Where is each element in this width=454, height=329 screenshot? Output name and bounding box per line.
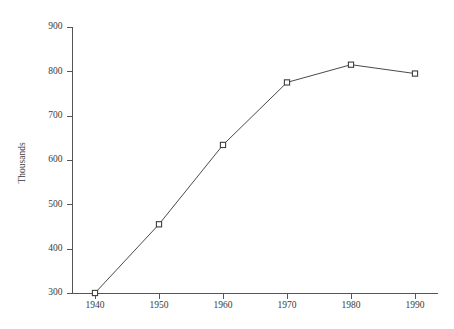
- y-tick-labels: 900800700600500400300: [48, 21, 63, 297]
- y-axis-title: Thousands: [17, 142, 27, 183]
- y-tick-marks: [67, 28, 73, 294]
- data-point-marker: [284, 80, 289, 85]
- y-tick-label: 400: [48, 243, 63, 253]
- x-tick-label: 1980: [342, 300, 361, 310]
- y-tick-label: 800: [48, 66, 63, 76]
- x-tick-label: 1970: [278, 300, 297, 310]
- series-markers: [92, 62, 417, 296]
- y-axis-group: 900800700600500400300 Thousands: [17, 21, 73, 297]
- x-tick-labels: 194019501960197019801990: [86, 300, 425, 310]
- x-axis-group: 194019501960197019801990: [72, 293, 438, 310]
- y-tick-label: 700: [48, 110, 63, 120]
- data-point-marker: [92, 290, 97, 295]
- y-tick-label: 900: [48, 21, 63, 31]
- x-tick-label: 1950: [150, 300, 169, 310]
- data-point-marker: [220, 142, 225, 147]
- y-tick-label: 600: [48, 154, 63, 164]
- data-point-marker: [156, 222, 161, 227]
- series-line-thousands: [95, 65, 415, 293]
- line-chart: 900800700600500400300 Thousands 19401950…: [0, 0, 454, 329]
- chart-canvas: 900800700600500400300 Thousands 19401950…: [0, 0, 454, 329]
- y-tick-label: 500: [48, 199, 63, 209]
- x-tick-label: 1940: [86, 300, 105, 310]
- data-point-marker: [412, 71, 417, 76]
- data-point-marker: [348, 62, 353, 67]
- x-tick-label: 1960: [214, 300, 233, 310]
- data-series-group: [92, 62, 417, 296]
- x-tick-label: 1990: [406, 300, 425, 310]
- y-tick-label: 300: [48, 287, 63, 297]
